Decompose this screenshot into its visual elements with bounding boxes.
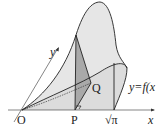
label-x-axis: x [147,113,154,127]
solid-diagram: O P Q √π x y y=f(x [0,0,159,138]
label-origin: O [17,113,26,127]
label-curve: y=f(x [128,80,156,94]
label-q: Q [92,81,101,95]
label-y-axis: y [49,45,56,59]
label-p: P [71,113,78,127]
x-axis-arrow-icon [151,109,155,112]
label-sqrt-pi: √π [105,113,118,127]
